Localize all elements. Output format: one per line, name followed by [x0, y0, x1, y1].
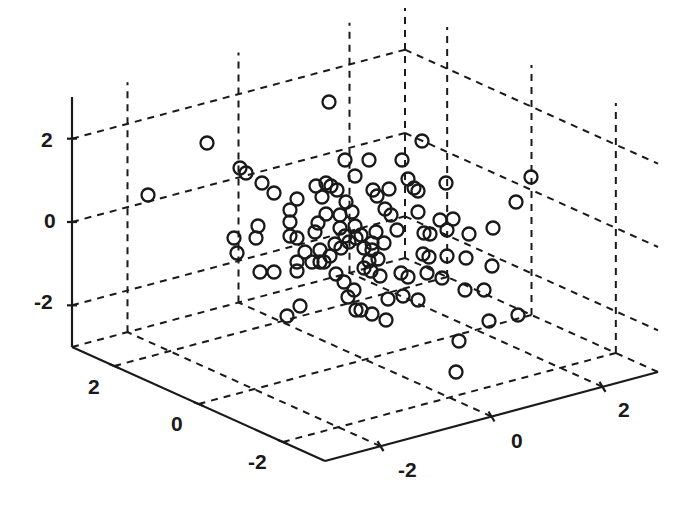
data-point-marker: [460, 252, 473, 265]
scatter3d-plot: 2 0 -2 2 0 -2 -2 0 2: [0, 0, 688, 508]
data-point-marker: [250, 232, 263, 245]
data-point-marker: [486, 260, 499, 273]
data-point-marker: [340, 196, 353, 209]
data-point-marker: [510, 196, 523, 209]
z-tick-label-0: 0: [44, 209, 56, 232]
data-point-marker: [478, 284, 491, 297]
data-point-marker: [382, 293, 395, 306]
data-point-marker: [330, 268, 343, 281]
data-point-marker: [391, 224, 404, 237]
data-point-marker: [294, 300, 307, 313]
data-point-marker: [228, 232, 241, 245]
data-point-marker: [339, 154, 352, 167]
floor-grid-line: [199, 315, 532, 404]
data-point-marker: [396, 154, 409, 167]
data-point-marker: [252, 220, 265, 233]
data-point-marker: [463, 228, 476, 241]
data-point-marker: [383, 183, 396, 196]
data-point-marker: [338, 276, 351, 289]
data-point-marker: [397, 290, 410, 303]
data-point-marker: [412, 294, 425, 307]
data-point-marker: [201, 137, 214, 150]
data-point-marker: [450, 366, 463, 379]
data-point-marker: [487, 222, 500, 235]
data-point-marker: [231, 247, 244, 260]
left-tick-label-neg2: -2: [248, 450, 267, 473]
data-point-marker: [440, 177, 453, 190]
right-tick-label-2: 2: [618, 398, 630, 421]
left-tick-label-0: 0: [171, 412, 183, 435]
data-point-marker: [268, 187, 281, 200]
data-point-marker: [142, 189, 155, 202]
data-point-marker: [268, 266, 281, 279]
data-point-marker: [412, 206, 425, 219]
data-point-marker: [316, 191, 329, 204]
wall-horizontal-grid-line: [72, 216, 405, 305]
data-point-marker: [334, 209, 347, 222]
data-point-marker: [323, 96, 336, 109]
left-tick-label-2: 2: [88, 375, 100, 398]
z-tick-label-neg2: -2: [34, 290, 53, 313]
grid-lines: [72, 8, 658, 446]
data-points: [142, 96, 538, 379]
data-point-marker: [363, 154, 376, 167]
data-point-marker: [281, 310, 294, 323]
data-point-marker: [254, 266, 267, 279]
tick-marks: [67, 139, 606, 452]
data-point-marker: [380, 314, 393, 327]
data-point-marker: [453, 335, 466, 348]
data-point-marker: [412, 185, 425, 198]
z-tick-label-2: 2: [41, 128, 53, 151]
right-tick-label-neg2: -2: [398, 458, 417, 481]
data-point-marker: [256, 177, 269, 190]
right-tick-label-0: 0: [511, 429, 523, 452]
